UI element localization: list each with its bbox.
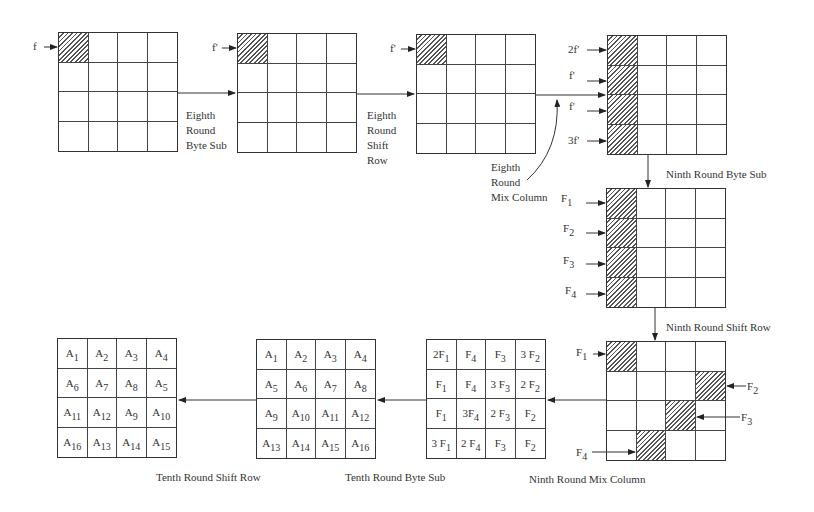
- state-byte-cell: [637, 401, 667, 431]
- state-byte-cell: A10: [287, 399, 317, 429]
- state-byte-cell: A6: [58, 369, 88, 399]
- aes-fault-diagram: 2F1F4F33 F2F1F43 F32 F2F13F42 F3F23 F12 …: [0, 0, 814, 512]
- input-label-F1: F1: [561, 192, 572, 204]
- stage-label-tenth-shift-row: Tenth Round Shift Row: [156, 470, 261, 485]
- state-byte-cell: [238, 123, 268, 153]
- state-byte-cell: A11: [58, 398, 88, 428]
- cell-value: A8: [117, 377, 146, 389]
- cell-value: F4: [457, 378, 486, 390]
- state-byte-cell: 3 F2: [516, 340, 546, 370]
- state-grid-after-ninth-shift-row: [606, 341, 726, 461]
- state-byte-cell: A8: [346, 370, 376, 400]
- cell-value: A2: [287, 348, 316, 360]
- state-grid-after-eighth-mix-column: [607, 35, 727, 155]
- state-byte-cell: [118, 92, 148, 122]
- stage-label-eighth-mix-column: Eighth Round Mix Column: [491, 160, 548, 205]
- faulty-byte-cell: [238, 34, 268, 64]
- state-byte-cell: [268, 34, 298, 64]
- state-grid-after-eighth-shift-row: [416, 34, 536, 154]
- state-byte-cell: 3 F1: [427, 429, 457, 459]
- cell-value: F2: [516, 407, 546, 419]
- cell-value: A14: [287, 437, 316, 449]
- stage-label-ninth-byte-sub: Ninth Round Byte Sub: [666, 167, 767, 182]
- cell-value: F4: [457, 348, 486, 360]
- state-byte-cell: A12: [346, 399, 376, 429]
- cell-value: 2 F4: [457, 437, 486, 449]
- cell-value: A4: [346, 348, 376, 360]
- cell-value: A15: [147, 436, 177, 448]
- state-byte-cell: F4: [457, 340, 487, 370]
- faulty-byte-cell: [666, 401, 696, 431]
- state-byte-cell: [118, 33, 148, 63]
- cell-value: A9: [117, 406, 146, 418]
- state-byte-cell: [666, 342, 696, 372]
- state-byte-cell: [666, 248, 696, 278]
- state-byte-cell: A15: [147, 428, 177, 458]
- state-byte-cell: [667, 66, 697, 96]
- state-grid-after-eighth-byte-sub: [237, 33, 357, 153]
- input-label-2f-prime: 2f': [568, 43, 579, 55]
- state-byte-cell: [696, 401, 726, 431]
- state-byte-cell: [417, 65, 447, 95]
- state-grid-after-tenth-byte-sub: A1A2A3A4A5A6A7A8A9A10A11A12A13A14A15A16: [256, 339, 376, 459]
- state-byte-cell: [637, 372, 667, 402]
- cell-value: 3F4: [457, 407, 486, 419]
- state-byte-cell: [697, 66, 727, 96]
- state-byte-cell: [637, 278, 667, 308]
- state-grid-after-ninth-byte-sub: [606, 188, 726, 308]
- state-byte-cell: [476, 94, 506, 124]
- state-byte-cell: F1: [427, 399, 457, 429]
- state-byte-cell: [607, 372, 637, 402]
- state-byte-cell: A6: [287, 370, 317, 400]
- state-byte-cell: 2 F4: [457, 429, 487, 459]
- state-byte-cell: A1: [257, 340, 287, 370]
- state-byte-cell: A16: [346, 429, 376, 459]
- state-byte-cell: A11: [316, 399, 346, 429]
- faulty-byte-cell: [637, 431, 667, 461]
- state-byte-cell: A8: [117, 369, 147, 399]
- state-byte-cell: [148, 122, 178, 152]
- state-byte-cell: [297, 93, 327, 123]
- cell-value: 2 F3: [486, 407, 515, 419]
- faulty-byte-cell: [607, 278, 637, 308]
- input-label-F3: F3: [741, 411, 752, 423]
- cell-value: A11: [58, 406, 87, 418]
- state-byte-cell: [637, 189, 667, 219]
- state-byte-cell: [506, 124, 536, 154]
- state-byte-cell: [268, 93, 298, 123]
- state-byte-cell: [476, 65, 506, 95]
- state-byte-cell: A12: [88, 398, 118, 428]
- state-grid-initial: [58, 32, 178, 152]
- state-byte-cell: [327, 34, 357, 64]
- state-byte-cell: A10: [147, 398, 177, 428]
- state-byte-cell: [638, 36, 668, 66]
- cell-value: A3: [117, 347, 146, 359]
- state-byte-cell: F3: [486, 340, 516, 370]
- state-byte-cell: [89, 92, 119, 122]
- state-byte-cell: A7: [316, 370, 346, 400]
- stage-label-tenth-byte-sub: Tenth Round Byte Sub: [345, 470, 445, 485]
- input-label-f: f: [33, 40, 37, 52]
- state-byte-cell: [696, 219, 726, 249]
- state-byte-cell: A16: [58, 428, 88, 458]
- state-byte-cell: [297, 123, 327, 153]
- cell-value: 2F1: [427, 348, 456, 360]
- cell-value: A11: [316, 407, 345, 419]
- state-byte-cell: F3: [486, 429, 516, 459]
- stage-label-eighth-shift-row: Eighth Round Shift Row: [367, 108, 396, 168]
- state-byte-cell: [59, 122, 89, 152]
- state-byte-cell: [666, 189, 696, 219]
- state-byte-cell: [638, 66, 668, 96]
- state-byte-cell: [696, 431, 726, 461]
- state-byte-cell: [638, 95, 668, 125]
- state-byte-cell: A13: [88, 428, 118, 458]
- cell-value: A12: [346, 407, 376, 419]
- cell-value: A4: [147, 347, 177, 359]
- state-byte-cell: [667, 36, 697, 66]
- state-byte-cell: [506, 94, 536, 124]
- state-byte-cell: [327, 93, 357, 123]
- state-byte-cell: F2: [516, 399, 546, 429]
- cell-value: 3 F2: [516, 348, 546, 360]
- cell-value: A16: [58, 436, 87, 448]
- state-byte-cell: A4: [147, 339, 177, 369]
